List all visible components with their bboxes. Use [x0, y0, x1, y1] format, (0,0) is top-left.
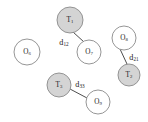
- node-t2[interactable]: T2: [118, 64, 140, 86]
- edge-label-edge-t1-o7: d12: [59, 38, 69, 47]
- edge-label-subscript-edge-o8-t2: 21: [133, 56, 139, 62]
- node-distance-diagram: O6T1O7O8T2T3O9 d12d21d33: [0, 0, 148, 122]
- edge-label-subscript-edge-t1-o7: 12: [63, 41, 69, 47]
- edge-line: [73, 32, 84, 42]
- edge-label-edge-o8-t2: d21: [129, 53, 139, 62]
- node-t3[interactable]: T3: [47, 73, 71, 97]
- nodes-layer: O6T1O7O8T2T3O9: [14, 7, 140, 114]
- edge-label-edge-t3-o9: d33: [75, 80, 85, 89]
- node-o8[interactable]: O8: [112, 26, 136, 50]
- node-o7[interactable]: O7: [77, 40, 101, 64]
- edge-line: [70, 89, 87, 98]
- diagram-canvas: O6T1O7O8T2T3O9 d12d21d33: [0, 0, 148, 122]
- edge-line: [120, 49, 127, 64]
- node-o9[interactable]: O9: [86, 90, 110, 114]
- node-t1[interactable]: T1: [57, 7, 83, 33]
- edge-label-subscript-edge-t3-o9: 33: [79, 83, 85, 89]
- node-o6[interactable]: O6: [14, 39, 40, 65]
